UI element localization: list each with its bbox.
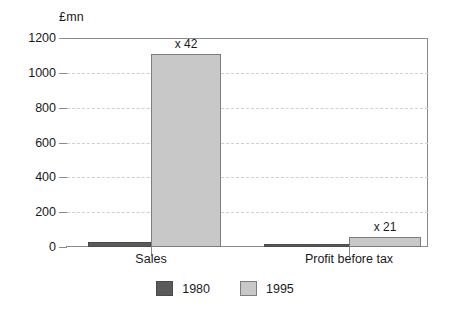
gridline: [67, 177, 428, 178]
y-axis-tick-label: 1200: [28, 32, 56, 44]
y-axis-tick: [59, 212, 67, 213]
y-axis-tick: [59, 108, 67, 109]
legend-item-1995[interactable]: 1995: [240, 281, 294, 296]
y-axis-tick-label: 400: [35, 171, 56, 183]
bar-sales-1980: [88, 242, 151, 247]
gridline: [67, 108, 428, 109]
x-axis-label-profit-before-tax: Profit before tax: [259, 252, 439, 266]
bar-annotation-profit-before-tax: x 21: [335, 220, 435, 234]
y-axis-tick: [59, 177, 67, 178]
legend-label-1980: 1980: [182, 282, 210, 296]
y-axis-tick: [59, 73, 67, 74]
bar-profit-before-tax-1980: [264, 244, 349, 247]
legend-item-1980[interactable]: 1980: [156, 281, 210, 296]
y-axis-tick-label: 1000: [28, 67, 56, 79]
y-axis-unit-label: £mn: [59, 10, 84, 24]
x-axis-label-sales: Sales: [61, 252, 241, 266]
bar-profit-before-tax-1995: [349, 237, 421, 247]
bar-sales-1995: [151, 54, 221, 247]
y-axis-tick-label: 0: [49, 241, 56, 253]
y-axis-tick-label: 600: [35, 137, 56, 149]
gridline: [67, 143, 428, 144]
y-axis-tick: [59, 247, 67, 248]
y-axis-tick-label: 800: [35, 102, 56, 114]
legend-swatch-1980: [156, 281, 173, 296]
legend-swatch-1995: [240, 281, 257, 296]
bar-annotation-sales: x 42: [136, 37, 236, 51]
bar-chart: £mn 120010008006004002000 x 42x 21 Sales…: [0, 0, 450, 316]
legend-label-1995: 1995: [266, 282, 294, 296]
chart-legend: 19801995: [0, 281, 450, 296]
y-axis-tick: [59, 143, 67, 144]
y-axis-tick-label: 200: [35, 206, 56, 218]
gridline: [67, 212, 428, 213]
y-axis-tick: [59, 38, 67, 39]
gridline: [67, 73, 428, 74]
